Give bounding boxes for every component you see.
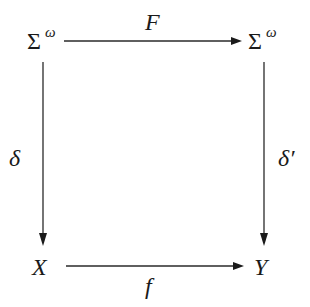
edge-right-label: δ′ xyxy=(278,145,295,171)
arrowhead-down-icon xyxy=(39,233,47,246)
node-top-left-sup: ω xyxy=(45,24,56,40)
edge-right-arrow xyxy=(260,62,268,246)
node-bottom-right: Y xyxy=(254,254,270,280)
node-top-right-base: Σ xyxy=(248,28,262,54)
commutative-diagram: Σ ω Σ ω X Y F δ δ′ f xyxy=(0,0,310,307)
node-top-left: Σ ω xyxy=(27,24,56,54)
edge-top-label: F xyxy=(144,9,160,35)
edge-top-arrow xyxy=(64,37,242,45)
edge-left-label: δ xyxy=(9,145,21,171)
node-top-right-sup: ω xyxy=(266,24,277,40)
edge-bottom-label: f xyxy=(145,273,155,299)
arrowhead-right-icon xyxy=(233,262,244,270)
node-top-right: Σ ω xyxy=(248,24,277,54)
arrowhead-right-icon xyxy=(231,37,242,45)
edge-bottom-arrow xyxy=(66,262,244,270)
node-top-left-base: Σ xyxy=(27,28,41,54)
arrowhead-down-icon xyxy=(260,233,268,246)
node-bottom-left: X xyxy=(31,254,48,280)
edge-left-arrow xyxy=(39,62,47,246)
